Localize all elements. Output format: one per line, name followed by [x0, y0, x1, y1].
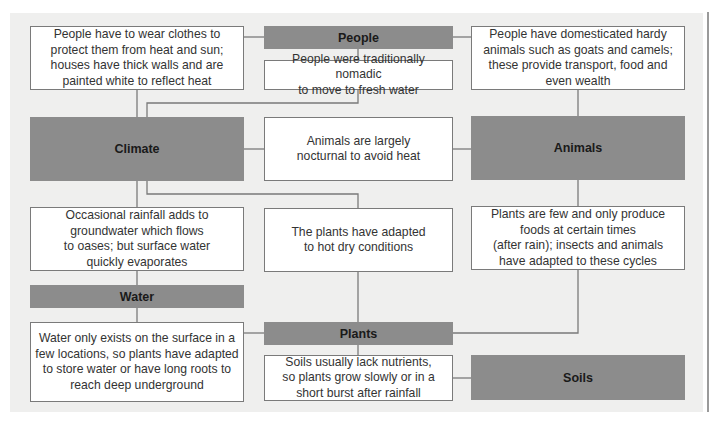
note-rainfall: Occasional rainfall adds to groundwater …: [30, 207, 244, 271]
note-plants-few: Plants are few and only produce foods at…: [471, 206, 685, 270]
note-soils-nutrients-text: Soils usually lack nutrients, so plants …: [282, 355, 434, 402]
note-clothes: People have to wear clothes to protect t…: [30, 26, 244, 90]
note-domesticated-text: People have domesticated hardy animals s…: [483, 27, 673, 89]
note-plants-adapted-text: The plants have adapted to hot dry condi…: [291, 225, 425, 256]
category-people: People: [264, 26, 453, 49]
category-soils-label: Soils: [563, 371, 593, 385]
category-soils: Soils: [471, 355, 685, 400]
note-plants-adapted: The plants have adapted to hot dry condi…: [264, 208, 453, 272]
note-plants-few-text: Plants are few and only produce foods at…: [491, 207, 665, 269]
note-nomadic-text: People were traditionally nomadic to mov…: [269, 52, 448, 99]
category-plants-label: Plants: [340, 327, 378, 341]
category-plants: Plants: [264, 322, 453, 345]
category-people-label: People: [338, 31, 379, 45]
category-climate: Climate: [30, 117, 244, 181]
category-animals: Animals: [471, 116, 685, 180]
note-domesticated: People have domesticated hardy animals s…: [471, 26, 685, 90]
category-animals-label: Animals: [554, 141, 603, 155]
note-nocturnal: Animals are largely nocturnal to avoid h…: [264, 117, 453, 181]
note-water-surface: Water only exists on the surface in a fe…: [30, 322, 244, 402]
note-nomadic: People were traditionally nomadic to mov…: [264, 60, 453, 90]
category-water-label: Water: [120, 290, 154, 304]
note-soils-nutrients: Soils usually lack nutrients, so plants …: [264, 355, 453, 401]
category-water: Water: [30, 285, 244, 308]
note-water-surface-text: Water only exists on the surface in a fe…: [35, 331, 238, 393]
note-nocturnal-text: Animals are largely nocturnal to avoid h…: [297, 134, 420, 165]
note-clothes-text: People have to wear clothes to protect t…: [51, 27, 224, 89]
category-climate-label: Climate: [114, 142, 159, 156]
note-rainfall-text: Occasional rainfall adds to groundwater …: [64, 208, 210, 270]
